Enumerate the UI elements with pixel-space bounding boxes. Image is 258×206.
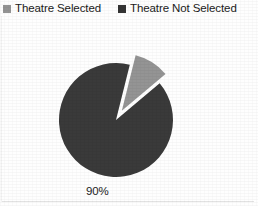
pie-svg: [0, 16, 258, 191]
pie-plot-area: [0, 16, 258, 191]
chart-legend: Theatre Selected Theatre Not Selected: [3, 1, 255, 16]
pie-slice-group: [59, 55, 173, 177]
figure-bottom-rule: [2, 201, 254, 202]
pie-data-label-90-percent: 90%: [86, 185, 109, 197]
legend-item-theatre-selected[interactable]: Theatre Selected: [3, 1, 101, 16]
legend-swatch-icon-theatre-selected: [3, 5, 11, 13]
legend-label-theatre-not-selected: Theatre Not Selected: [130, 2, 237, 15]
pie-chart-figure: Theatre Selected Theatre Not Selected 90…: [0, 0, 258, 206]
legend-item-theatre-not-selected[interactable]: Theatre Not Selected: [118, 1, 237, 16]
legend-swatch-icon-theatre-not-selected: [118, 5, 126, 13]
legend-label-theatre-selected: Theatre Selected: [15, 2, 101, 15]
